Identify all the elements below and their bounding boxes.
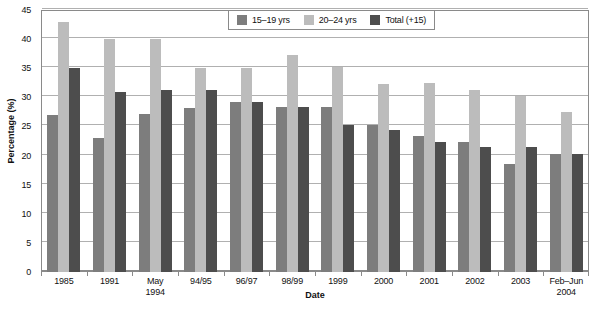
bar-chart-figure: Percentage (%) 051015202530354045 198519… xyxy=(0,0,597,309)
bar xyxy=(230,102,241,272)
y-axis-tick-labels: 051015202530354045 xyxy=(0,10,36,272)
x-tick-label-line: 1991 xyxy=(87,276,133,287)
bar xyxy=(561,112,572,272)
bar-group xyxy=(178,10,224,272)
x-tick-label-line: 96/97 xyxy=(224,276,270,287)
bar-group xyxy=(406,10,452,272)
y-tick-label: 10 xyxy=(21,209,31,219)
bar xyxy=(550,154,561,272)
bar xyxy=(424,83,435,272)
bar xyxy=(515,96,526,272)
bar xyxy=(184,108,195,272)
bar xyxy=(343,125,354,272)
bar xyxy=(298,107,309,272)
bar-group xyxy=(269,10,315,272)
bar xyxy=(115,92,126,272)
bar xyxy=(195,68,206,272)
bar xyxy=(469,90,480,272)
chart-legend: 15–19 yrs20–24 yrsTotal (+15) xyxy=(228,10,435,30)
y-tick-label: 30 xyxy=(21,92,31,102)
y-tick-label: 0 xyxy=(26,267,31,277)
x-axis-title: Date xyxy=(41,290,589,300)
bar xyxy=(435,142,446,272)
y-tick-label: 20 xyxy=(21,151,31,161)
x-tick-label-line: 2001 xyxy=(406,276,452,287)
x-tick-label-line: 1985 xyxy=(41,276,87,287)
bar-group xyxy=(315,10,361,272)
bar xyxy=(321,107,332,272)
legend-swatch-icon xyxy=(237,15,247,25)
bar xyxy=(389,130,400,272)
gridline xyxy=(42,8,588,9)
bar xyxy=(572,154,583,272)
bar-group xyxy=(132,10,178,272)
bar xyxy=(367,125,378,272)
bar-group xyxy=(87,10,133,272)
bar xyxy=(206,90,217,272)
legend-label: 15–19 yrs xyxy=(252,15,290,25)
legend-label: 20–24 yrs xyxy=(319,15,357,25)
bar xyxy=(58,22,69,272)
bar xyxy=(480,147,491,272)
bar xyxy=(504,164,515,272)
x-tick-label-line: 2000 xyxy=(361,276,407,287)
bar xyxy=(161,90,172,272)
y-tick-label: 40 xyxy=(21,34,31,44)
bar xyxy=(69,68,80,272)
bar xyxy=(139,114,150,272)
bar xyxy=(378,84,389,272)
y-tick-label: 45 xyxy=(21,5,31,15)
bar xyxy=(47,115,58,272)
legend-label: Total (+15) xyxy=(385,15,426,25)
x-tick-label-line: 1999 xyxy=(315,276,361,287)
legend-entry: Total (+15) xyxy=(370,15,426,25)
x-tick-label-line: 2003 xyxy=(498,276,544,287)
x-tick-label-line: May xyxy=(132,276,178,287)
x-tick-label-line: 94/95 xyxy=(178,276,224,287)
bar-group xyxy=(224,10,270,272)
legend-swatch-icon xyxy=(304,15,314,25)
bar xyxy=(104,39,115,272)
bar xyxy=(276,107,287,272)
bar-group xyxy=(361,10,407,272)
bars-layer xyxy=(41,10,589,272)
y-tick-label: 5 xyxy=(26,238,31,248)
x-tick-label-line: Feb–Jun xyxy=(543,276,589,287)
y-tick-label: 15 xyxy=(21,180,31,190)
x-tick-label-line: 98/99 xyxy=(269,276,315,287)
bar xyxy=(332,67,343,272)
bar-group xyxy=(543,10,589,272)
legend-entry: 20–24 yrs xyxy=(304,15,357,25)
bar-group xyxy=(452,10,498,272)
legend-swatch-icon xyxy=(370,15,380,25)
y-tick-label: 25 xyxy=(21,121,31,131)
bar xyxy=(458,142,469,272)
bar-group xyxy=(498,10,544,272)
bar xyxy=(526,147,537,272)
bar xyxy=(413,136,424,272)
bar-group xyxy=(41,10,87,272)
bar xyxy=(150,39,161,272)
bar xyxy=(287,55,298,272)
legend-entry: 15–19 yrs xyxy=(237,15,290,25)
y-tick-label: 35 xyxy=(21,63,31,73)
bar xyxy=(93,138,104,272)
bar xyxy=(252,102,263,272)
x-tick-label-line: 2002 xyxy=(452,276,498,287)
bar xyxy=(241,68,252,272)
